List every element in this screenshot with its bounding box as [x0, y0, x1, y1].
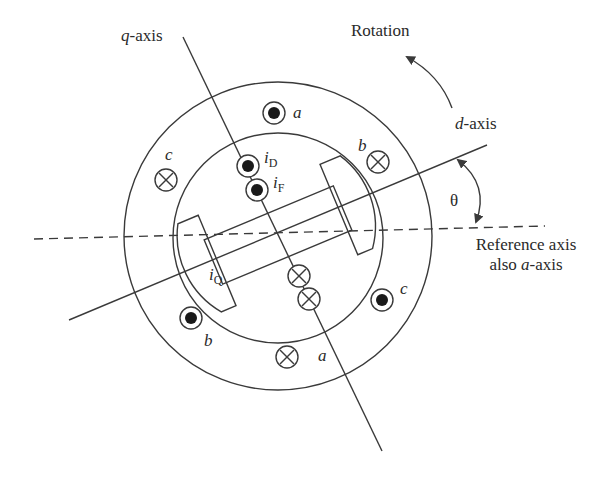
- iD-label: iD: [264, 149, 277, 166]
- coil-b-cross: [367, 151, 389, 173]
- q-axis-line: [183, 37, 382, 451]
- phase-a-bottom-label: a: [318, 347, 327, 364]
- coil-b-dot: [180, 307, 202, 329]
- reference-axis-line1: Reference axis: [456, 235, 596, 255]
- reference-axis-label: Reference axis also a-axis: [456, 235, 596, 276]
- coil-c-cross: [155, 169, 177, 191]
- rotation-label: Rotation: [351, 22, 410, 39]
- iF-label: iF: [273, 174, 284, 191]
- coil-iQ-cross-1: [288, 265, 310, 287]
- d-axis-line: [69, 145, 487, 320]
- theta-arc-arrow: [458, 160, 480, 222]
- phase-c-left-label: c: [165, 146, 173, 163]
- phase-b-right-label: b: [358, 137, 367, 154]
- coil-c-dot: [371, 289, 393, 311]
- reference-axis-line2: also a-axis: [456, 255, 596, 275]
- coil-iF-dot: [246, 179, 268, 201]
- theta-label: θ: [450, 192, 458, 209]
- iQ-label: iQ: [209, 266, 222, 283]
- d-axis-label: d-axis: [455, 115, 497, 132]
- rotation-arrow: [407, 57, 452, 108]
- q-axis-label: q-axis: [121, 27, 163, 44]
- coil-a-cross: [276, 346, 298, 368]
- coil-iQ-cross-2: [298, 288, 320, 310]
- coil-a-dot: [263, 102, 285, 124]
- phase-a-top-label: a: [293, 104, 302, 121]
- coil-iD-dot: [237, 155, 259, 177]
- phase-c-bottom-label: c: [400, 280, 408, 297]
- phase-b-bottom-label: b: [204, 332, 213, 349]
